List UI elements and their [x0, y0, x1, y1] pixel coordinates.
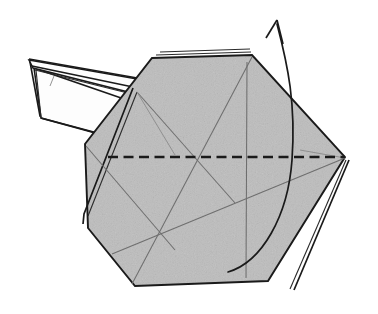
fold-arrow-head-right-barb [277, 20, 283, 44]
origami-illustration [0, 0, 378, 314]
fold-arrow-head-left-barb [266, 20, 277, 38]
origami-diagram-canvas [0, 0, 378, 314]
top-edge-layer-line [160, 49, 250, 52]
